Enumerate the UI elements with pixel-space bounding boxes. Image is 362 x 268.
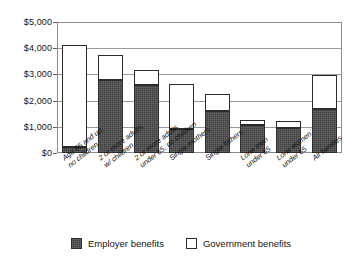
bar-segment-government-benefits: [312, 75, 337, 110]
y-axis: $5,000$4,000$3,000$2,000$1,000$0: [0, 22, 52, 153]
legend-item: Employer benefits: [71, 238, 164, 249]
bar-segment-government-benefits: [205, 94, 230, 111]
chart-legend: Employer benefitsGovernment benefits: [0, 238, 362, 249]
bar-segment-government-benefits: [240, 120, 265, 126]
y-axis-tick-label: $5,000: [24, 17, 52, 27]
bar-segment-government-benefits: [62, 45, 87, 147]
bar-segment-government-benefits: [134, 70, 159, 85]
x-axis: Age 65 and up,no children2 or more adult…: [57, 154, 342, 218]
bar-segment-government-benefits: [98, 55, 123, 80]
stacked-bar-chart: $5,000$4,000$3,000$2,000$1,000$0 Age 65 …: [0, 0, 362, 268]
legend-swatch-employer-icon: [71, 238, 82, 249]
y-axis-tick-label: $2,000: [24, 96, 52, 106]
legend-item: Government benefits: [186, 238, 291, 249]
legend-label: Employer benefits: [88, 238, 164, 249]
bar-segment-government-benefits: [276, 121, 301, 128]
legend-swatch-government-icon: [186, 238, 197, 249]
y-axis-tick-label: $4,000: [24, 43, 52, 53]
y-axis-tick-label: $3,000: [24, 69, 52, 79]
y-axis-tick-label: $0: [42, 148, 52, 158]
y-axis-tick-label: $1,000: [24, 122, 52, 132]
legend-label: Government benefits: [203, 238, 291, 249]
